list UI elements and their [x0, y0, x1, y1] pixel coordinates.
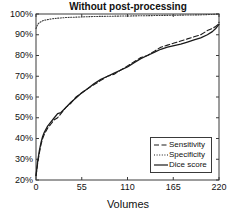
legend-label: Dice score	[169, 160, 207, 170]
series-line-specificity	[36, 14, 219, 29]
chart-legend[interactable]: SensitivitySpecificityDice score	[150, 137, 212, 173]
legend-item-dice-score[interactable]: Dice score	[153, 160, 209, 170]
legend-label: Specificity	[169, 150, 205, 160]
legend-label: Sensitivity	[169, 140, 205, 150]
legend-line-swatch-solid	[153, 160, 169, 170]
chart-figure: Without post-processing 20%30%40%50%60%7…	[0, 0, 234, 222]
legend-item-sensitivity[interactable]: Sensitivity	[153, 140, 209, 150]
legend-line-swatch-dotted	[153, 150, 169, 160]
legend-line-swatch-dashed	[153, 140, 169, 150]
plot-area	[0, 0, 234, 222]
legend-item-specificity[interactable]: Specificity	[153, 150, 209, 160]
